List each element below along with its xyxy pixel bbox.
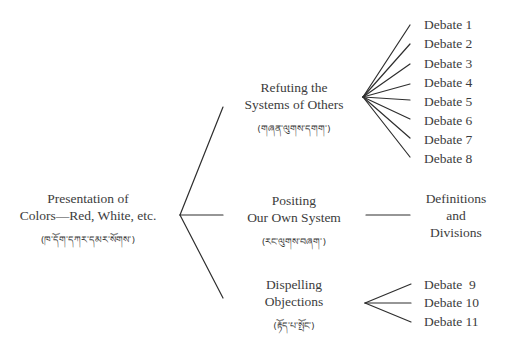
- leaf-line3: Divisions: [430, 225, 482, 240]
- branch-label-line1: Positing: [272, 193, 316, 208]
- leaf-line2: and: [446, 208, 466, 223]
- branch-refuting-others: Refuting the Systems of Others (གཞན་ལུགས…: [226, 79, 362, 137]
- leaf-debate-1: Debate 1: [424, 16, 472, 33]
- leaf-debate-6: Debate 6: [424, 112, 472, 129]
- leaf-debate-3: Debate 3: [424, 55, 472, 72]
- leaf-debate-2: Debate 2: [424, 35, 472, 52]
- root-tibetan: (ཁ་དོག་དཀར་དམར་སོགས་): [2, 231, 174, 248]
- root-label-line2: Colors—Red, White, etc.: [20, 208, 157, 223]
- leaf-line1: Definitions: [426, 191, 487, 206]
- leaf-debate-4: Debate 4: [424, 74, 472, 91]
- branch-label-line2: Systems of Others: [245, 97, 344, 112]
- branch-tibetan: (རང་ལུགས་བཞག་): [226, 233, 362, 250]
- branch-dispelling-objections: Dispelling Objections (རྟོད་པ་སྤོང་): [226, 276, 362, 334]
- root-label-line1: Presentation of: [47, 191, 128, 206]
- leaf-debate-5: Debate 5: [424, 93, 472, 110]
- branch-tibetan: (རྟོད་པ་སྤོང་): [226, 317, 362, 334]
- branch-label-line2: Objections: [265, 294, 324, 309]
- branch-label-line2: Our Own System: [247, 210, 341, 225]
- leaf-debate-11: Debate 11: [424, 313, 479, 330]
- branch-tibetan: (གཞན་ལུགས་དགག་): [226, 120, 362, 137]
- leaf-debate-9: Debate 9: [424, 276, 476, 293]
- root-node: Presentation of Colors—Red, White, etc. …: [2, 190, 174, 248]
- leaf-debate-7: Debate 7: [424, 131, 472, 148]
- leaf-debate-8: Debate 8: [424, 150, 472, 167]
- branch-positing-own: Positing Our Own System (རང་ལུགས་བཞག་): [226, 192, 362, 250]
- branch-label-line1: Dispelling: [266, 277, 322, 292]
- branch-label-line1: Refuting the: [260, 80, 327, 95]
- leaf-debate-10: Debate 10: [424, 294, 479, 311]
- leaf-definitions-divisions: Definitions and Divisions: [410, 190, 502, 241]
